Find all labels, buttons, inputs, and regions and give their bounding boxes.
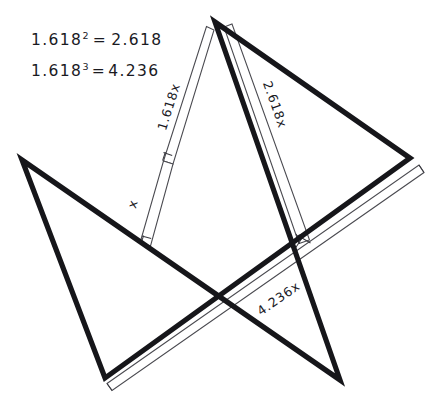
equation-square-base: 1.618	[31, 31, 82, 49]
equation-square-relation: =	[93, 31, 107, 49]
equation-square-result: 2.618	[111, 31, 162, 49]
equation-cube-base: 1.618	[31, 62, 82, 80]
equation-square: 1.6182=2.618	[31, 30, 163, 49]
equation-cube-exponent: 3	[82, 61, 89, 72]
equation-square-exponent: 2	[82, 30, 89, 41]
figure-canvas: 1.6182=2.618 1.6183=4.236 1.618x 2.618x …	[0, 0, 430, 411]
equation-cube-relation: =	[92, 62, 106, 80]
equation-cube: 1.6183=4.236	[31, 61, 160, 80]
pentagram-figure: 1.6182=2.618 1.6183=4.236 1.618x 2.618x …	[0, 0, 430, 411]
equation-cube-result: 4.236	[108, 62, 159, 80]
